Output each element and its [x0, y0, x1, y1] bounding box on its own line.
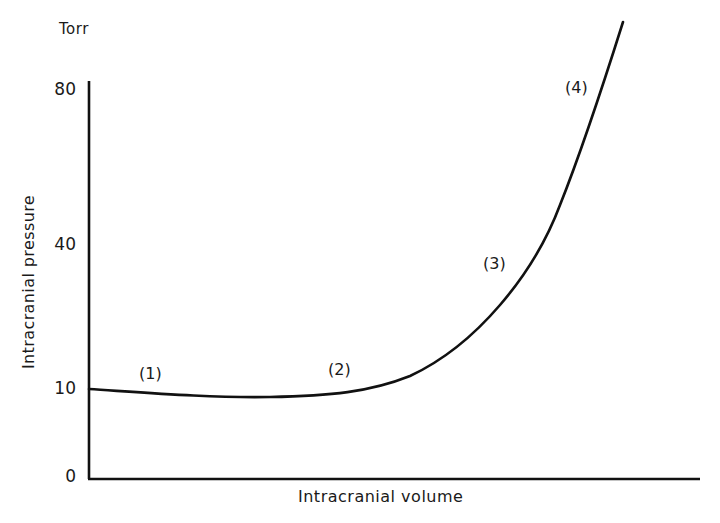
segment-label-1: (1): [139, 364, 162, 383]
y-tick-0: 0: [36, 466, 76, 486]
y-axis-unit: Torr: [59, 20, 89, 38]
x-axis-label: Intracranial volume: [298, 487, 463, 506]
chart-plot-area: [0, 0, 720, 523]
segment-label-2: (2): [328, 360, 351, 379]
segment-label-4: (4): [565, 78, 588, 97]
segment-label-3: (3): [483, 254, 506, 273]
y-axis-label: Intracranial pressure: [19, 195, 38, 369]
y-tick-80: 80: [36, 79, 76, 99]
y-tick-10: 10: [36, 378, 76, 398]
y-tick-40: 40: [36, 234, 76, 254]
pressure-volume-curve: [89, 22, 623, 397]
